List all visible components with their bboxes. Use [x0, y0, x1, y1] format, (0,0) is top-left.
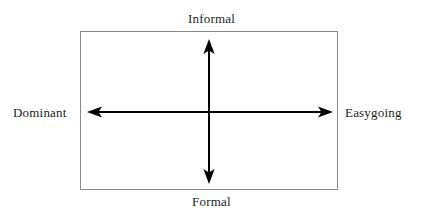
- axis-label-right: Easygoing: [345, 106, 402, 119]
- axis-label-top: Informal: [0, 12, 423, 25]
- axes-diagram: Informal Formal Dominant Easygoing: [0, 0, 423, 211]
- axis-label-left: Dominant: [13, 106, 67, 119]
- axis-label-bottom: Formal: [0, 195, 423, 208]
